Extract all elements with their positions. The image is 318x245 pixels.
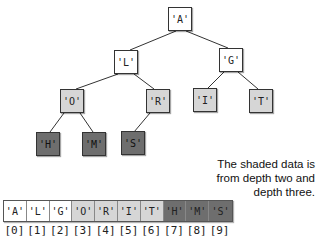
- tree-node: 'R': [146, 89, 170, 113]
- array-index: [3]: [71, 224, 94, 237]
- array-index: [5]: [117, 224, 140, 237]
- array-indices: [0] [1] [2] [3] [4] [5] [6] [7] [8] [9]: [3, 224, 231, 237]
- tree-node: 'G': [219, 48, 243, 72]
- array-index: [7]: [163, 224, 186, 237]
- tree-node: 'H': [36, 132, 60, 156]
- caption-line: The shaded data is: [195, 157, 315, 171]
- tree-node: 'S': [121, 131, 145, 155]
- tree-node: 'T': [249, 89, 273, 113]
- array-cell: 'M': [186, 201, 209, 221]
- array-cell: 'G': [50, 201, 73, 221]
- tree-node-root: 'A': [168, 7, 192, 31]
- array: 'A' 'L' 'G' 'O' 'R' 'I' 'T' 'H' 'M' 'S': [3, 200, 233, 222]
- tree-node: 'L': [114, 50, 138, 74]
- caption: The shaded data is from depth two and de…: [195, 157, 315, 199]
- array-cell: 'R': [95, 201, 118, 221]
- array-cell: 'L': [27, 201, 50, 221]
- array-cell: 'A': [4, 201, 27, 221]
- tree-node: 'I': [193, 88, 217, 112]
- array-index: [9]: [208, 224, 231, 237]
- array-index: [2]: [49, 224, 72, 237]
- array-index: [1]: [26, 224, 49, 237]
- tree-node: 'O': [60, 89, 84, 113]
- tree-node: 'M': [82, 132, 106, 156]
- array-cell: 'I': [118, 201, 141, 221]
- array-index: [0]: [3, 224, 26, 237]
- caption-line: from depth two and: [195, 171, 315, 185]
- array-cell: 'H': [164, 201, 187, 221]
- array-cell: 'T': [141, 201, 164, 221]
- array-cell: 'O': [72, 201, 95, 221]
- array-index: [4]: [94, 224, 117, 237]
- array-cell: 'S': [209, 201, 232, 221]
- array-index: [8]: [185, 224, 208, 237]
- caption-line: depth three.: [195, 185, 315, 199]
- array-index: [6]: [140, 224, 163, 237]
